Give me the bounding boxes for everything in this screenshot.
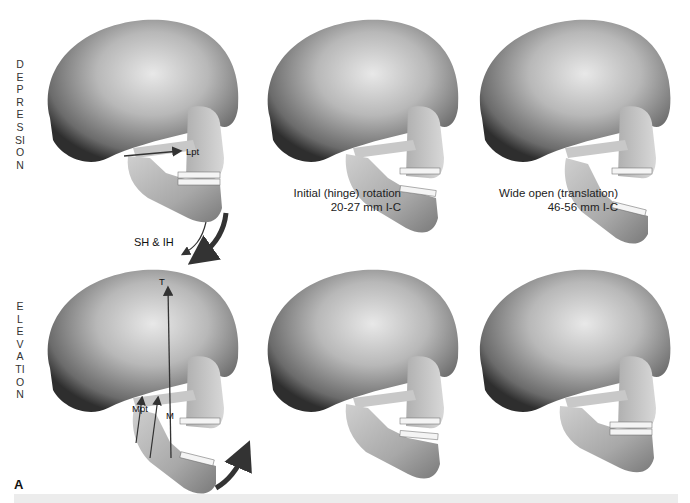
caption-wide-open-line2: 46-56 mm I-C <box>470 200 618 214</box>
caption-wide-open-line1: Wide open (translation) <box>470 186 618 200</box>
label-t: T <box>159 276 165 287</box>
row-label-elevation: ELEVATION <box>14 300 26 401</box>
caption-hinge-line2: 20-27 mm I-C <box>258 200 401 214</box>
skull-elevation-closed <box>470 258 690 498</box>
caption-wide-open: Wide open (translation) 46-56 mm I-C <box>470 186 618 214</box>
bottom-divider <box>14 494 678 503</box>
skull-depression-closed: Lpt SH & IH <box>38 8 258 248</box>
label-lpt: Lpt <box>186 146 199 157</box>
skull-elevation-open: T Mpt M <box>38 258 258 498</box>
skull-elevation-partial <box>258 258 478 498</box>
label-m: M <box>166 410 174 421</box>
figure-letter: A <box>14 477 23 492</box>
caption-hinge: Initial (hinge) rotation 20-27 mm I-C <box>258 186 401 214</box>
caption-hinge-line1: Initial (hinge) rotation <box>258 186 401 200</box>
skull-depression-wide-open: Wide open (translation) 46-56 mm I-C <box>470 8 690 248</box>
row-label-depression: DEPRESSION <box>14 58 26 171</box>
label-sh-ih: SH & IH <box>134 236 174 248</box>
skull-depression-hinge: Initial (hinge) rotation 20-27 mm I-C <box>258 8 478 248</box>
label-mpt: Mpt <box>132 403 148 414</box>
